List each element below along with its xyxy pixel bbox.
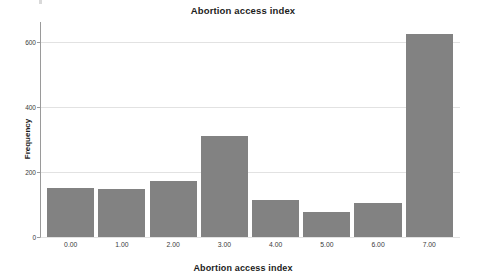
bar-6.00 bbox=[354, 203, 401, 237]
bar-2.00 bbox=[150, 181, 197, 237]
bar-5.00 bbox=[303, 212, 350, 237]
bars-layer bbox=[40, 22, 460, 237]
x-axis-title: Abortion access index bbox=[0, 263, 486, 273]
x-tick-label-2.00: 2.00 bbox=[167, 241, 180, 248]
bar-0.00 bbox=[47, 188, 94, 237]
bar-3.00 bbox=[201, 136, 248, 237]
bar-7.00 bbox=[406, 34, 453, 237]
histogram-chart: Abortion access index Frequency 02004006… bbox=[0, 0, 486, 277]
x-tick-label-7.00: 7.00 bbox=[423, 241, 436, 248]
x-tick-label-1.00: 1.00 bbox=[115, 241, 128, 248]
bar-4.00 bbox=[252, 200, 299, 237]
x-tick-label-0.00: 0.00 bbox=[64, 241, 77, 248]
y-tick-label-600: 600 bbox=[25, 38, 36, 45]
y-tick-label-400: 400 bbox=[25, 103, 36, 110]
x-tick-label-3.00: 3.00 bbox=[218, 241, 231, 248]
bar-1.00 bbox=[98, 189, 145, 237]
x-tick-label-6.00: 6.00 bbox=[371, 241, 384, 248]
y-tick-mark-0 bbox=[37, 237, 40, 238]
gridline-0 bbox=[41, 237, 460, 238]
y-tick-label-200: 200 bbox=[25, 168, 36, 175]
scan-artifact bbox=[39, 0, 42, 4]
y-axis-title: Frequency bbox=[23, 118, 32, 158]
y-tick-label-0: 0 bbox=[32, 234, 36, 241]
x-tick-label-5.00: 5.00 bbox=[320, 241, 333, 248]
x-tick-label-4.00: 4.00 bbox=[269, 241, 282, 248]
chart-title: Abortion access index bbox=[0, 5, 486, 16]
plot-area: 0200400600 0.001.002.003.004.005.006.007… bbox=[40, 22, 460, 237]
